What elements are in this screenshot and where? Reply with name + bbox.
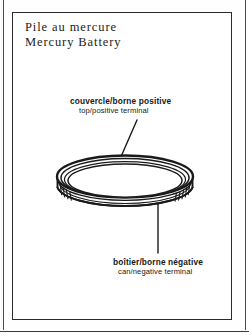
page-edge-rule-left [3, 0, 4, 330]
callout-top-positive-terminal: couvercle/borne positive top/positive te… [70, 96, 171, 115]
figure-title-french: Pile au mercure [25, 20, 121, 35]
callout-bottom-negative-terminal: boîtier/borne négative can/negative term… [113, 257, 203, 276]
callout-top-label-english: top/positive terminal [70, 106, 171, 115]
page-edge-rule-bottom [0, 331, 249, 332]
callout-bottom-label-english: can/negative terminal [113, 267, 203, 276]
callout-top-label-french: couvercle/borne positive [70, 96, 171, 106]
figure-title-english: Mercury Battery [25, 35, 121, 50]
callout-bottom-label-french: boîtier/borne négative [113, 257, 203, 267]
page-edge-rule-right [245, 0, 246, 330]
figure-title: Pile au mercure Mercury Battery [25, 20, 121, 50]
figure-page: Pile au mercure Mercury Battery couvercl… [0, 0, 249, 336]
